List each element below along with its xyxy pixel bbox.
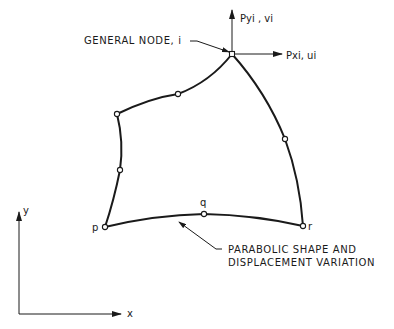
element-diagram: GENERAL NODE, i Pyi , vi Pxi, ui p q r P… <box>0 0 394 329</box>
edge-top <box>117 54 232 114</box>
axis-y-label: y <box>23 205 29 216</box>
node-q-label: q <box>200 197 206 208</box>
edge-right <box>232 54 303 226</box>
node-left-mid <box>117 167 122 172</box>
general-node-leader <box>190 41 229 52</box>
node-top-mid <box>175 91 180 96</box>
node-r <box>300 223 305 228</box>
node-right-mid <box>282 136 287 141</box>
parabolic-leader <box>179 222 222 249</box>
node-top-left <box>114 111 119 116</box>
force-y-label: Pyi , vi <box>240 13 273 24</box>
node-q <box>201 211 206 216</box>
axis-x-label: x <box>127 308 133 319</box>
annotation-line-2: DISPLACEMENT VARIATION <box>228 257 375 268</box>
node-p <box>102 224 107 229</box>
node-i <box>230 52 235 57</box>
annotation-line-1: PARABOLIC SHAPE AND <box>228 244 357 255</box>
force-x-label: Pxi, ui <box>286 50 316 61</box>
node-r-label: r <box>308 221 313 232</box>
node-p-label: p <box>92 222 98 233</box>
general-node-label: GENERAL NODE, i <box>84 35 182 46</box>
